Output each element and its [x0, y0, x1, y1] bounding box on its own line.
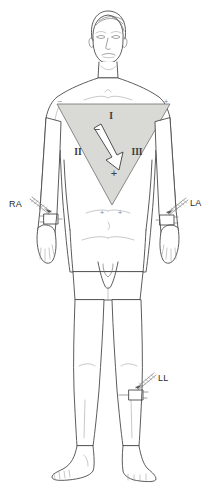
lead-label-iii: III — [131, 147, 142, 157]
electrode-label-ll: LL — [158, 373, 169, 383]
electrode-label-ra: RA — [9, 199, 22, 209]
head-group — [89, 11, 127, 64]
lead-i-positive-mark: + — [111, 167, 117, 179]
electrode-label-la: LA — [190, 198, 202, 208]
apex-plus-right-mark: + — [118, 208, 123, 217]
shoulder-right-plus-mark: + — [164, 97, 169, 106]
lead-i-negative-mark: − — [94, 123, 100, 135]
lead-label-i: I — [109, 111, 113, 121]
body-diagram: I II III − + − + + + RA LA LL — [0, 0, 216, 494]
shoulder-left-minus-mark: − — [58, 97, 63, 106]
einthoven-triangle-figure: I II III − + − + + + RA LA LL — [0, 0, 216, 494]
lead-label-ii: II — [74, 147, 82, 157]
apex-plus-left-mark: + — [100, 208, 105, 217]
